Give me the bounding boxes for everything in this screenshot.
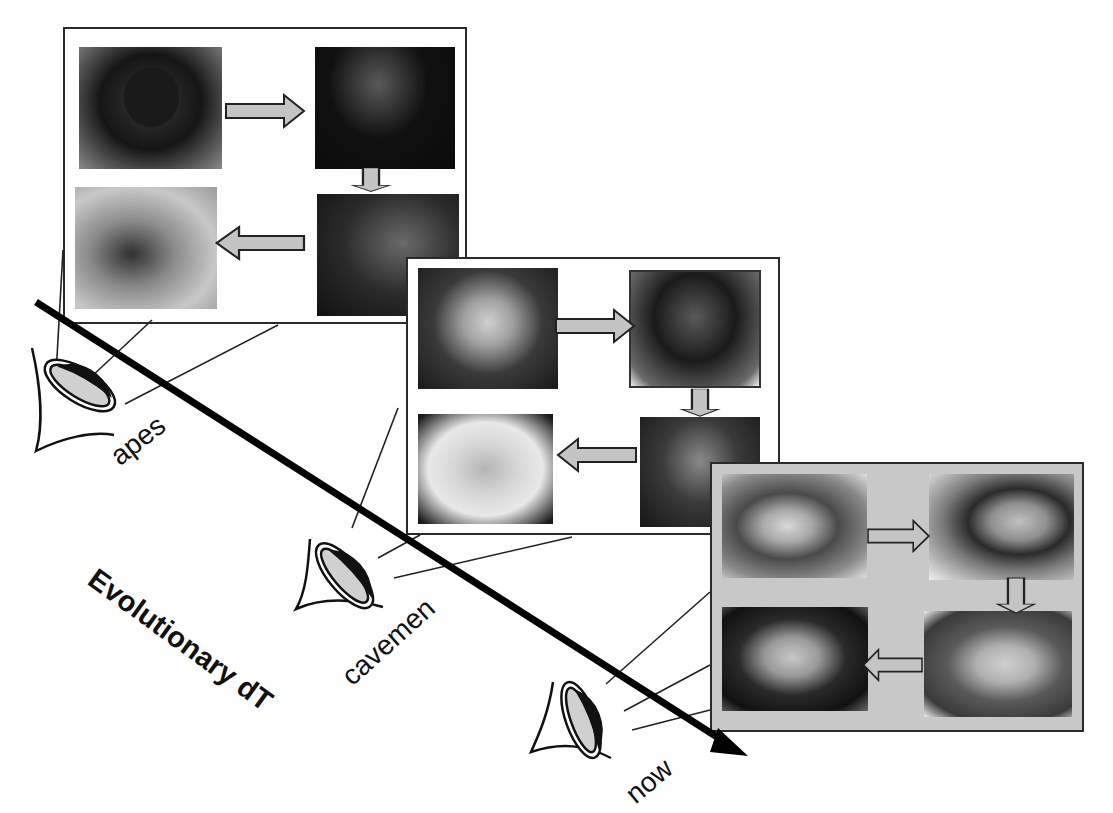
eye-icon — [32, 348, 123, 451]
evolutionary-time-diagram: apes cavemen now Evolutionary dT — [0, 0, 1113, 813]
sight-lines-cavemen — [352, 408, 572, 578]
flow-arrow-now-left — [864, 650, 923, 680]
flow-arrow-now-down — [998, 578, 1035, 613]
flow-arrow-apes-right — [226, 95, 304, 127]
sight-lines-now — [606, 592, 710, 730]
eye-icon — [296, 533, 384, 616]
eye-icon — [531, 676, 612, 763]
flow-arrow-apes-left — [217, 227, 304, 259]
flow-arrow-apes-down — [353, 168, 390, 191]
flow-arrow-cavemen-left — [558, 439, 636, 471]
flow-arrow-now-right — [868, 521, 929, 551]
flow-arrow-cavemen-right — [556, 310, 634, 342]
time-axis-arrow — [36, 302, 748, 756]
diagram-overlay — [0, 0, 1113, 813]
flow-arrow-cavemen-down — [682, 389, 719, 416]
